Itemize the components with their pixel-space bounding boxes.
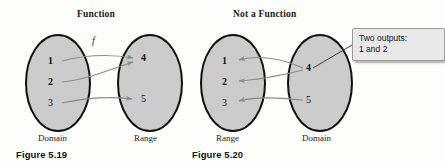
figure-5-19-title: Function	[77, 10, 115, 20]
set-label-range-right: Range	[134, 134, 157, 143]
element-domain-1: 1	[48, 56, 53, 66]
element-range-2: 2	[222, 77, 227, 87]
set-label-range-left: Range	[216, 134, 239, 143]
ellipse-range-right	[118, 35, 182, 131]
ellipse-domain-left	[26, 35, 90, 131]
element-range-5: 5	[141, 94, 146, 104]
element-range-1: 1	[222, 56, 227, 66]
set-label-domain-right: Domain	[302, 134, 331, 143]
ellipse-domain-right	[288, 35, 352, 131]
set-label-domain-left: Domain	[38, 134, 67, 143]
figure-5-19-caption: Figure 5.19	[16, 150, 67, 160]
element-domain-4: 4	[306, 63, 311, 73]
function-map-label-f: f	[92, 36, 95, 46]
figure-5-20-caption: Figure 5.20	[192, 150, 243, 160]
ellipse-range-left	[201, 35, 265, 131]
callout-line-1: Two outputs:	[359, 33, 407, 43]
element-domain-5: 5	[306, 95, 311, 105]
figure-5-20-title: Not a Function	[233, 10, 297, 20]
callout-two-outputs: Two outputs: 1 and 2	[352, 28, 445, 61]
element-domain-3: 3	[48, 98, 53, 108]
callout-line-2: 1 and 2	[359, 44, 439, 55]
element-domain-2: 2	[48, 77, 53, 87]
element-range-4: 4	[141, 53, 146, 63]
element-range-3: 3	[222, 98, 227, 108]
